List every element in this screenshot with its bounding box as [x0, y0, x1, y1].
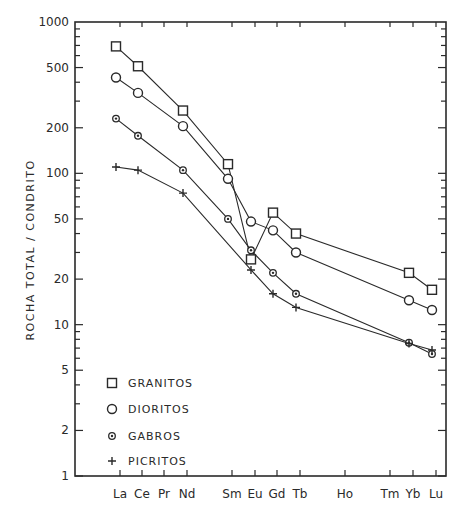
marker-dot — [272, 272, 274, 274]
circle-marker-icon — [428, 306, 437, 315]
y-tick-label: 5 — [61, 363, 69, 377]
circle-marker-icon — [269, 226, 278, 235]
y-tick-label: 2 — [61, 423, 69, 437]
square-marker-icon — [247, 255, 256, 264]
y-tick-label: 500 — [46, 61, 69, 75]
legend: GRANITOSDIORITOSGABROSPICRITOS — [108, 377, 194, 468]
y-tick-label: 1000 — [38, 15, 69, 29]
marker-dot — [295, 293, 297, 295]
data-series — [112, 42, 437, 357]
series-line — [116, 119, 432, 354]
marker-dot — [137, 135, 139, 137]
series-line — [116, 167, 432, 350]
x-tick-label: Ce — [134, 487, 150, 501]
plus-marker-icon — [112, 163, 120, 171]
marker-dot — [115, 117, 117, 119]
x-tick-label: Eu — [247, 487, 262, 501]
legend-label: GABROS — [128, 430, 181, 443]
square-marker-icon — [428, 285, 437, 294]
legend-item: GABROS — [109, 430, 181, 443]
square-marker-icon — [179, 106, 188, 115]
x-tick-label: Yb — [405, 487, 421, 501]
plus-marker-icon — [108, 457, 116, 465]
x-tick-label: Tm — [379, 487, 399, 501]
x-tick-label: Ho — [337, 487, 353, 501]
y-tick-label: 20 — [54, 272, 69, 286]
legend-item: PICRITOS — [108, 455, 187, 468]
square-marker-icon — [224, 160, 233, 169]
circle-marker-icon — [134, 88, 143, 97]
circle-marker-icon — [112, 73, 121, 82]
x-tick-label: Pr — [158, 487, 170, 501]
circle-marker-icon — [247, 217, 256, 226]
series-dioritos — [112, 73, 437, 315]
square-marker-icon — [112, 42, 121, 51]
legend-item: GRANITOS — [108, 377, 194, 390]
square-marker-icon — [134, 62, 143, 71]
square-marker-icon — [405, 268, 414, 277]
y-tick-label: 100 — [46, 166, 69, 180]
x-tick-label: La — [113, 487, 127, 501]
x-tick-label: Gd — [269, 487, 286, 501]
marker-dot — [250, 249, 252, 251]
circle-marker-icon — [292, 248, 301, 257]
y-tick-label: 1 — [61, 469, 69, 483]
legend-item: DIORITOS — [108, 403, 190, 416]
plus-marker-icon — [134, 166, 142, 174]
square-marker-icon — [269, 208, 278, 217]
y-axis-label: ROCHA TOTAL / CONDRITO — [24, 159, 37, 340]
series-granitos — [112, 42, 437, 294]
x-tick-label: Nd — [179, 487, 196, 501]
y-tick-label: 200 — [46, 121, 69, 135]
legend-label: PICRITOS — [128, 455, 187, 468]
circle-marker-icon — [108, 405, 117, 414]
y-axis: 1251020501002005001000 — [38, 15, 446, 483]
marker-dot — [227, 218, 229, 220]
legend-label: DIORITOS — [128, 403, 190, 416]
ree-spider-chart: 1251020501002005001000 LaCePrNdSmEuGdTbH… — [0, 0, 465, 520]
legend-label: GRANITOS — [128, 377, 193, 390]
circle-marker-icon — [179, 122, 188, 131]
square-marker-icon — [108, 379, 117, 388]
x-tick-label: Lu — [429, 487, 443, 501]
y-tick-label: 10 — [54, 318, 69, 332]
x-tick-label: Tb — [292, 487, 308, 501]
series-gabros — [113, 115, 436, 357]
circle-marker-icon — [405, 296, 414, 305]
circle-marker-icon — [224, 174, 233, 183]
y-tick-label: 50 — [54, 212, 69, 226]
series-line — [116, 46, 432, 289]
marker-dot — [111, 435, 113, 437]
series-picritos — [112, 163, 436, 354]
square-marker-icon — [292, 229, 301, 238]
plus-marker-icon — [292, 303, 300, 311]
marker-dot — [182, 169, 184, 171]
x-tick-label: Sm — [222, 487, 241, 501]
